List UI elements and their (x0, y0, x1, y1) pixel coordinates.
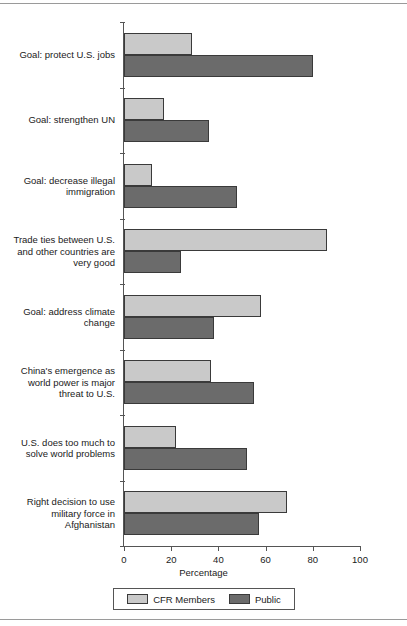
y-tick-mark (120, 350, 125, 351)
bar-group (124, 360, 360, 404)
bar-public (124, 382, 254, 404)
y-tick-mark (120, 153, 125, 154)
bar-cfr-members (124, 426, 176, 448)
bar-group (124, 164, 360, 208)
x-axis-line (123, 546, 360, 547)
legend-item-public: Public (229, 594, 281, 605)
bar-public (124, 120, 209, 142)
y-tick-mark (120, 219, 125, 220)
x-tick-label: 20 (166, 554, 177, 565)
plot-area: 020406080100 (124, 22, 360, 546)
x-tick-mark (360, 546, 361, 551)
category-label: Right decision to use military force in … (3, 496, 115, 531)
bar-group (124, 491, 360, 535)
bar-cfr-members (124, 33, 192, 55)
y-tick-mark (120, 284, 125, 285)
legend-label-public: Public (255, 594, 281, 605)
bar-group (124, 229, 360, 273)
chart-figure: Goal: protect U.S. jobsGoal: strengthen … (0, 0, 407, 626)
bar-cfr-members (124, 229, 327, 251)
x-tick-mark (171, 546, 172, 551)
x-tick-label: 0 (121, 554, 126, 565)
y-tick-mark (120, 481, 125, 482)
x-tick-label: 40 (213, 554, 224, 565)
category-label: Trade ties between U.S. and other countr… (3, 234, 115, 269)
x-tick-mark (124, 546, 125, 551)
bar-group (124, 98, 360, 142)
bar-cfr-members (124, 164, 152, 186)
bar-cfr-members (124, 98, 164, 120)
x-tick-label: 60 (260, 554, 271, 565)
y-tick-mark (120, 88, 125, 89)
legend-label-cfr: CFR Members (153, 594, 215, 605)
bar-group (124, 295, 360, 339)
bar-public (124, 513, 259, 535)
category-label: Goal: decrease illegal immigration (3, 174, 115, 197)
x-tick-mark (218, 546, 219, 551)
legend-item-cfr-members: CFR Members (127, 594, 215, 605)
bar-public (124, 55, 313, 77)
y-tick-mark (120, 22, 125, 23)
bar-public (124, 317, 214, 339)
bar-cfr-members (124, 360, 211, 382)
x-tick-label: 80 (308, 554, 319, 565)
bar-public (124, 186, 237, 208)
x-axis-title: Percentage (0, 567, 407, 578)
x-tick-mark (313, 546, 314, 551)
figure-top-border (0, 3, 407, 4)
bar-cfr-members (124, 295, 261, 317)
x-tick-mark (266, 546, 267, 551)
legend-swatch-icon-public (229, 594, 250, 604)
category-label: Goal: strengthen UN (3, 115, 115, 127)
category-label: U.S. does too much to solve world proble… (3, 436, 115, 459)
bar-public (124, 251, 181, 273)
bar-cfr-members (124, 491, 287, 513)
bar-group (124, 426, 360, 470)
legend-swatch-icon-cfr (127, 594, 148, 604)
category-label: Goal: protect U.S. jobs (3, 49, 115, 61)
chart-legend: CFR Members Public (113, 588, 295, 610)
bar-group (124, 33, 360, 77)
category-label: China's emergence as world power is majo… (3, 365, 115, 400)
category-label: Goal: address climate change (3, 305, 115, 328)
y-tick-mark (120, 415, 125, 416)
x-tick-label: 100 (352, 554, 368, 565)
figure-bottom-border (0, 619, 407, 620)
bar-public (124, 448, 247, 470)
